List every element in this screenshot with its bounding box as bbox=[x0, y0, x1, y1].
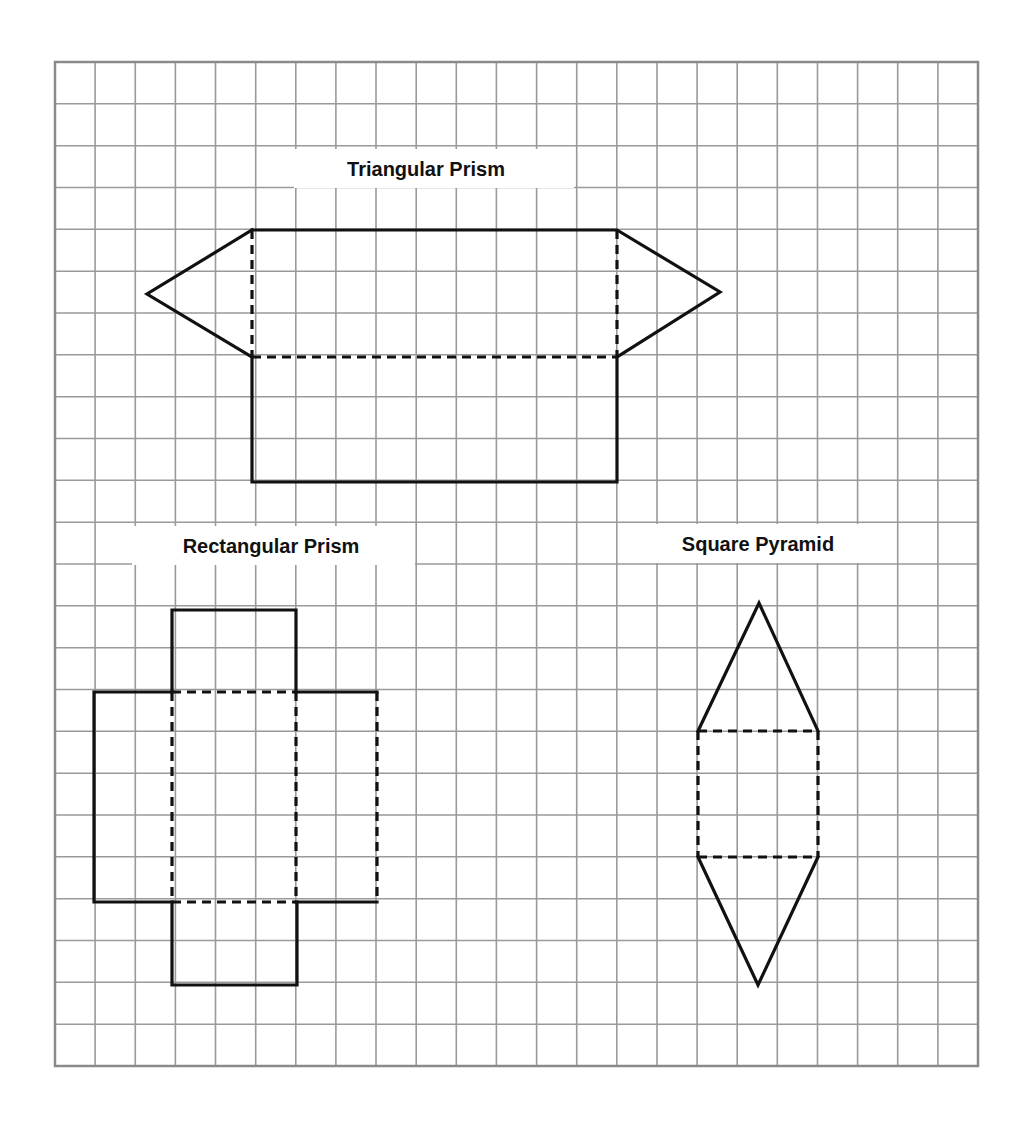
square-pyramid-label: Square Pyramid bbox=[682, 533, 834, 555]
rectangular-prism-label: Rectangular Prism bbox=[183, 535, 360, 557]
graph-paper-diagram: Triangular Prism Rectangular Prism Squar… bbox=[0, 0, 1033, 1133]
triangular-prism-label: Triangular Prism bbox=[347, 158, 505, 180]
